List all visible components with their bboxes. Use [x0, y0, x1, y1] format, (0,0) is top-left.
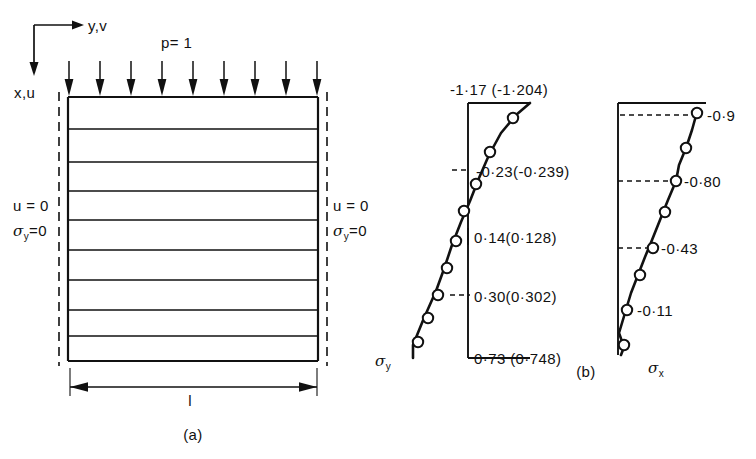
figure-root: y,v x,u p= 1: [0, 0, 756, 459]
sigma-y-axis-label: σy: [375, 352, 391, 372]
load-arrow: [313, 61, 322, 96]
sigma-y-node: [485, 147, 495, 157]
load-label: p= 1: [161, 34, 192, 51]
axis-horizontal-label: y,v: [88, 17, 107, 34]
axis-y-arrowhead: [72, 21, 84, 30]
sigma-y-label-mid: 0·14(0·128): [474, 229, 557, 246]
sigma-y-label-top: -1·17 (-1·204): [450, 81, 548, 98]
sigma-x-node: [692, 108, 702, 118]
coordinate-axes: y,v x,u: [14, 17, 107, 101]
load-arrow: [189, 61, 198, 96]
sigma-x-node: [622, 305, 632, 315]
panel-b-caption: (b): [576, 363, 596, 380]
load-arrow: [251, 61, 260, 96]
plate-outline: [68, 97, 318, 361]
sigma-y-label-upper-mid: -0·23(-0·239): [476, 163, 570, 180]
sigma-x-node: [619, 340, 629, 350]
sigma-y-node: [471, 179, 481, 189]
sigma-x-label-lower: -0·11: [637, 302, 673, 319]
sigma-y-node: [442, 263, 452, 273]
dimension-arrowhead-left: [70, 382, 88, 392]
load-arrow: [65, 61, 74, 96]
dimension-label: l: [188, 392, 192, 409]
figure-svg: y,v x,u p= 1: [0, 0, 756, 459]
load-arrow: [158, 61, 167, 96]
plate-mesh-lines: [68, 129, 318, 336]
bc-left-sigma-symbol: σ: [13, 222, 24, 240]
sigma-y-node: [433, 290, 443, 300]
axis-x-arrowhead: [30, 62, 39, 76]
bc-label-left: u = 0 σy=0: [13, 197, 49, 242]
bc-left-u-label: u = 0: [13, 197, 49, 214]
sigma-x-axis-label: σx: [648, 359, 664, 379]
sigma-x-label-mid: -0·43: [661, 240, 698, 257]
dimension-l: l: [70, 368, 317, 409]
load-arrow-group: [65, 61, 322, 96]
sigma-y-node: [413, 337, 423, 347]
sigma-x-node: [635, 270, 645, 280]
load-arrow: [127, 61, 136, 96]
bc-left-sigma-label: σy=0: [13, 222, 47, 242]
sigma-y-node: [459, 206, 469, 216]
sigma-x-node: [671, 176, 681, 186]
sigma-x-label-upper-mid: -0·80: [684, 173, 721, 190]
panel-a: y,v x,u p= 1: [13, 17, 369, 443]
sigma-y-node: [423, 313, 433, 323]
bc-right-sigma-symbol: σ: [333, 222, 344, 240]
load-arrow: [96, 61, 105, 96]
bc-left-sigma-rest: =0: [29, 222, 47, 239]
sigma-x-label-top: -0·9: [707, 107, 735, 124]
bc-right-sigma-rest: =0: [349, 222, 367, 239]
bc-label-right: u = 0 σy=0: [333, 197, 369, 242]
sigma-y-axis-subscript: y: [386, 361, 391, 372]
panel-a-caption: (a): [183, 426, 203, 443]
bc-right-sigma-label: σy=0: [333, 222, 367, 242]
chart-sigma-x: -0·9 -0·80 -0·43 -0·11 σx: [618, 103, 735, 379]
sigma-x-axis-subscript: x: [659, 368, 664, 379]
sigma-x-node: [648, 243, 658, 253]
sigma-x-node: [660, 207, 670, 217]
bc-right-u-label: u = 0: [333, 197, 369, 214]
sigma-x-node: [681, 143, 691, 153]
dimension-arrowhead-right: [299, 382, 317, 392]
load-arrow: [220, 61, 229, 96]
sigma-x-axis-symbol: σ: [648, 359, 659, 377]
chart-sigma-y: -1·17 (-1·204) -0·23(-0·239) 0·14(0·128)…: [375, 81, 570, 372]
panel-b: -1·17 (-1·204) -0·23(-0·239) 0·14(0·128)…: [375, 81, 735, 380]
axis-vertical-label: x,u: [14, 84, 35, 101]
sigma-y-label-lower-mid: 0·30(0·302): [474, 288, 557, 305]
sigma-y-node: [508, 113, 518, 123]
sigma-y-node: [451, 236, 461, 246]
sigma-y-label-bottom: 0·73 (0·748): [474, 350, 561, 367]
load-arrow: [282, 61, 291, 96]
sigma-y-axis-symbol: σ: [375, 352, 386, 370]
